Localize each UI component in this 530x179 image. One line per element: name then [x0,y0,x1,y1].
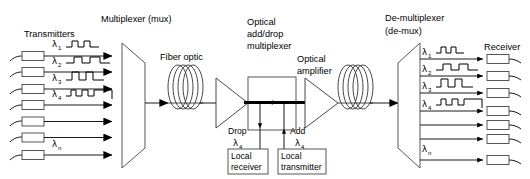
local-receiver-line2: receiver [231,162,262,172]
oadm-label-line1: Optical [247,17,276,27]
transmitter-lambda-n: λ [52,139,57,149]
receiver-group: λ 1 λ 2 λ 3 [420,47,521,165]
receiver-row: λ 3 [420,79,521,98]
receiver-label: Receiver [484,42,520,52]
transmitter-lambda-2-sub: 2 [58,62,62,68]
transmitter-lambda-n-sub: n [58,145,61,151]
transmitter-lambda-3-sub: 3 [58,79,62,85]
diagram-canvas: Transmitters Multiplexer (mux) Fiber opt… [0,0,530,179]
pulse-waveform-2 [66,57,110,63]
wdm-network-diagram: Transmitters Multiplexer (mux) Fiber opt… [0,0,530,179]
local-transmitter-line1: Local [281,151,302,161]
drop-lambda: λ [233,138,238,148]
amplifier-label-line2: amplifier [297,66,332,76]
receiver-pulse-3 [436,79,473,87]
transmitter-row [10,117,112,126]
receiver-lambda-1-sub: 1 [428,53,432,59]
local-receiver-line1: Local [231,151,252,161]
oadm-label-line3: multiplexer [247,41,291,51]
transmitter-row: λ 1 [10,39,112,61]
fiber-optic-coil-icon [168,65,203,109]
receiver-row: λ n [420,144,521,165]
transmitter-group: λ 1 λ 2 λ 3 [10,39,112,160]
transmitter-lambda-1-sub: 1 [58,45,62,51]
drop-label: Drop [228,126,247,136]
pulse-waveform-4 [66,90,112,99]
oadm-label-line2: add/drop [247,29,283,39]
demultiplexer-label-line2: (de-mux) [385,26,422,36]
local-transmitter-line2: transmitter [281,162,322,172]
transmitter-lambda-3: λ [52,73,57,83]
receiver-row: λ 4 [420,99,521,116]
receiver-pulse-2 [436,64,478,70]
receiver-lambda-1: λ [422,47,427,57]
amplifier-label-line1: Optical [297,54,326,64]
receiver-pulse-1 [436,47,464,53]
receiver-lambda-2: λ [422,64,427,74]
receiver-row [420,121,521,130]
transmitter-lambda-4: λ [52,89,57,99]
pulse-waveform-3 [66,72,104,80]
receiver-lambda-4-sub: 4 [428,105,432,111]
receiver-lambda-4: λ [422,99,427,109]
receiver-lambda-2-sub: 2 [428,70,432,76]
receiver-lambda-3-sub: 3 [428,87,432,93]
fiber-optic-label: Fiber optic [160,52,203,62]
receiver-pulse-4 [436,99,482,108]
receiver-row [420,135,521,144]
multiplexer-shape [122,43,145,168]
multiplexer-label: Multiplexer (mux) [101,14,171,24]
transmitter-lambda-1: λ [52,39,57,49]
transmitter-lambda-2: λ [52,56,57,66]
pulse-waveform-1 [66,41,99,47]
transmitter-row [10,133,112,142]
fiber-optic-coil-2-icon [338,65,373,109]
demultiplexer-shape [398,43,420,168]
add-lambda: λ [295,138,300,148]
amplifier-triangle-left-icon [216,78,248,128]
demultiplexer-label-line1: De-multiplexer [385,13,444,23]
receiver-lambda-n-sub: n [428,150,431,156]
receiver-lambda-3: λ [422,81,427,91]
receiver-row: λ 2 [420,64,521,81]
receiver-lambda-n: λ [422,144,427,154]
transmitter-lambda-4-sub: 4 [58,95,62,101]
amplifier-triangle-right-icon [305,78,338,128]
add-label: Add [290,126,306,136]
transmitters-label: Transmitters [24,29,75,39]
